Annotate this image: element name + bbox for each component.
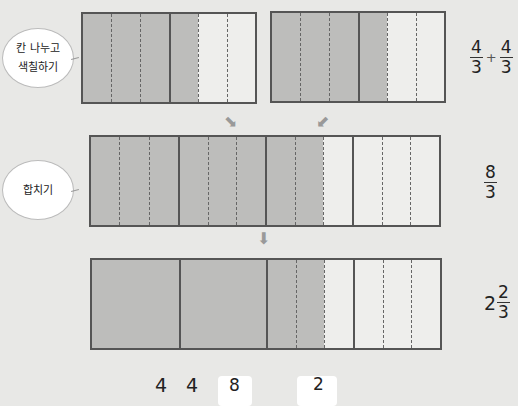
plus-sign: +: [486, 50, 497, 65]
speech-bubble-combine: 합치기: [2, 160, 74, 220]
fraction-bar-top-left: [81, 12, 257, 104]
fraction-bar-combined: [89, 135, 441, 227]
bubble-text: 합치기: [23, 181, 53, 200]
bubble-text-line1: 칸 나누고: [16, 39, 60, 58]
speech-bubble-divide-and-shade: 칸 나누고 색칠하기: [2, 28, 74, 88]
numerator: 4: [470, 38, 483, 58]
denominator: 3: [501, 58, 512, 77]
denominator: 3: [485, 183, 496, 202]
numerator: 4: [500, 38, 513, 58]
bubble-text-line2: 색칠하기: [18, 58, 58, 77]
whole-part: 2: [484, 292, 496, 314]
answer-value-1: 8: [229, 375, 240, 395]
fraction-bar-top-right: [270, 11, 446, 103]
mixed-number-2-2-3: 2 23: [484, 283, 510, 322]
arrow-down-left-icon: ⬋: [316, 114, 329, 130]
improper-fraction-8-3: 83: [484, 163, 497, 202]
answer-value-2: 2: [313, 374, 324, 394]
numerator: 2: [497, 283, 510, 303]
numerator: 8: [484, 163, 497, 183]
sum-expression-4-3-plus-4-3: 43 + 43: [470, 38, 513, 77]
arrow-down-icon: ⬇: [257, 231, 270, 247]
equation-term-1: 4: [155, 374, 167, 396]
denominator: 3: [498, 303, 509, 322]
arrow-down-right-icon: ⬊: [224, 114, 237, 130]
denominator: 3: [471, 58, 482, 77]
fraction-bar-mixed: [90, 258, 442, 350]
equation-term-2: 4: [186, 374, 198, 396]
